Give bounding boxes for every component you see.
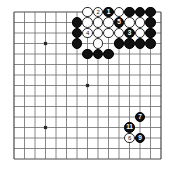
- stone-move-3[interactable]: 3: [124, 28, 134, 38]
- stone-move-1[interactable]: 1: [103, 7, 113, 17]
- stone-white[interactable]: [103, 28, 113, 38]
- stone-white[interactable]: [124, 17, 134, 27]
- go-board-diagram: 2154371169: [0, 0, 174, 186]
- stone-move-number: 1: [107, 9, 110, 16]
- stone-black[interactable]: [82, 49, 92, 59]
- stone-black[interactable]: [114, 38, 124, 48]
- stone-move-number: 6: [128, 135, 131, 141]
- stone-move-number: 11: [126, 124, 132, 131]
- stone-move-number: 7: [138, 114, 141, 121]
- stone-move-11[interactable]: 11: [124, 122, 134, 132]
- stone-move-number: 2: [96, 9, 99, 15]
- stone-black[interactable]: [72, 38, 82, 48]
- stone-black[interactable]: [145, 28, 155, 38]
- stone-move-5[interactable]: 5: [114, 17, 124, 27]
- stone-black[interactable]: [135, 38, 145, 48]
- stone-black[interactable]: [124, 7, 134, 17]
- stone-move-6[interactable]: 6: [124, 133, 134, 143]
- stone-black[interactable]: [72, 17, 82, 27]
- stone-white[interactable]: [93, 17, 103, 27]
- stone-black[interactable]: [145, 17, 155, 27]
- stone-move-number: 4: [86, 30, 89, 36]
- stone-move-number: 5: [117, 19, 120, 26]
- stone-black[interactable]: [145, 7, 155, 17]
- stone-move-4[interactable]: 4: [82, 28, 92, 38]
- stone-white[interactable]: [82, 17, 92, 27]
- stone-black[interactable]: [103, 49, 113, 59]
- stone-move-number: 3: [128, 30, 131, 37]
- stone-move-number: 9: [138, 135, 141, 142]
- stone-black[interactable]: [124, 38, 134, 48]
- stone-white[interactable]: [82, 7, 92, 17]
- stone-white[interactable]: [103, 17, 113, 27]
- stone-black[interactable]: [145, 38, 155, 48]
- stone-white[interactable]: [135, 17, 145, 27]
- stone-white[interactable]: [93, 38, 103, 48]
